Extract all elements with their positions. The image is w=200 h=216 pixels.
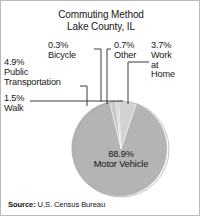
leader-line-public-transportation (80, 86, 87, 106)
source-label: Source: (8, 200, 36, 209)
leader-line-other (107, 49, 111, 104)
label-work-name3: Home (151, 70, 175, 80)
label-work-at-home: 3.7% Work at Home (151, 41, 175, 80)
label-motor-vehicle: 88.9% Motor Vehicle (71, 149, 171, 169)
label-walk: 1.5% Walk (4, 94, 24, 114)
label-other: 0.7% Other (114, 41, 136, 61)
leader-line-bicycle (94, 49, 101, 102)
label-motor-pct: 88.9% (71, 149, 171, 159)
source-text: U.S. Census Bureau (38, 200, 105, 209)
pie-chart-figure: Commuting Method Lake County, IL 0. (0, 0, 200, 216)
pie-chart-graphic (1, 1, 200, 216)
leader-line-work-at-home (128, 62, 149, 104)
label-walk-name: Walk (4, 104, 24, 114)
source-note: Source: U.S. Census Bureau (8, 200, 105, 209)
label-other-name: Other (114, 51, 136, 61)
label-public-name2: Transportation (4, 78, 61, 88)
label-public-transportation: 4.9% Public Transportation (4, 58, 61, 87)
label-motor-name: Motor Vehicle (71, 159, 171, 169)
